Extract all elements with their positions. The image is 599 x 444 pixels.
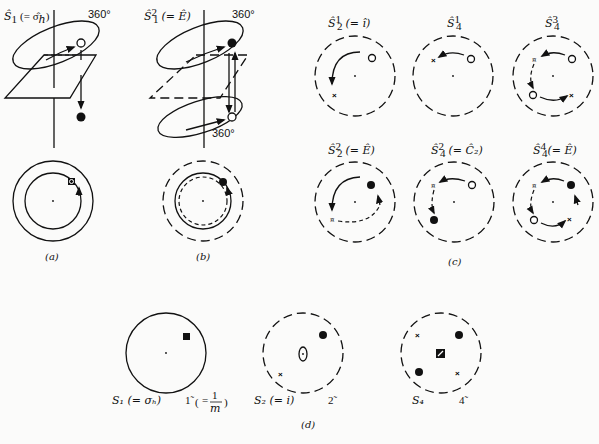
svg-text:1: 1 bbox=[212, 389, 218, 401]
c-title-3: Ŝ34 bbox=[545, 13, 560, 32]
d2-stereogram bbox=[263, 313, 343, 393]
filled-circle-point bbox=[77, 113, 86, 122]
panel-a-title: Ŝ1(= σ̂h) bbox=[4, 9, 50, 26]
c-title-1: Ŝ12(= î) bbox=[328, 13, 370, 32]
d3-schoenflies-label: S₄ bbox=[412, 394, 424, 407]
svg-text:¤: ¤ bbox=[532, 182, 537, 190]
cross-point: × bbox=[332, 91, 337, 100]
svg-text:×: × bbox=[278, 370, 283, 379]
d2-schoenflies-label: S₂ (= i) bbox=[254, 394, 294, 407]
open-circle-point bbox=[77, 39, 85, 47]
panel-c-caption: (c) bbox=[448, 256, 462, 267]
c-title-6: Ŝ44(= Ê) bbox=[533, 140, 577, 159]
c-title-5: Ŝ24(= Ĉ₂) bbox=[431, 140, 483, 159]
panel-c: Ŝ12(= î) Ŝ14 Ŝ34 × × ¤ × Ŝ22(= Ê) Ŝ24(= … bbox=[315, 13, 593, 267]
svg-text:=: = bbox=[202, 394, 208, 406]
panel-d-caption: (d) bbox=[301, 419, 315, 430]
svg-text:×: × bbox=[567, 215, 572, 224]
cross-point: × bbox=[431, 56, 436, 65]
c-title-2: Ŝ14 bbox=[447, 13, 462, 32]
svg-text:×: × bbox=[569, 91, 574, 100]
filled-circle-point bbox=[228, 39, 237, 48]
svg-text:×: × bbox=[455, 369, 460, 378]
d2-hm-label: 2̃ bbox=[328, 394, 338, 406]
svg-text:): ) bbox=[224, 396, 228, 409]
open-circle-point bbox=[468, 56, 475, 63]
d1-hm-label: 1̃ bbox=[185, 394, 195, 406]
svg-text:m: m bbox=[210, 402, 220, 415]
panel-a-caption: (a) bbox=[45, 251, 59, 262]
open-circle-point bbox=[369, 55, 376, 62]
open-circle-point bbox=[228, 113, 236, 121]
svg-text:(: ( bbox=[195, 396, 199, 409]
svg-text:¤: ¤ bbox=[431, 182, 436, 190]
rotation-angle-label: 360° bbox=[88, 8, 111, 20]
mirror-plane-dashed bbox=[150, 55, 248, 98]
symmetry-operations-figure: Ŝ1(= σ̂h) 360° (a) Ŝ21(= Ê) 360° 360° bbox=[0, 0, 599, 444]
coincident-point-marker bbox=[183, 333, 190, 340]
c-title-4: Ŝ22(= Ê) bbox=[328, 140, 375, 159]
filled-circle-point bbox=[219, 178, 227, 186]
svg-text:×: × bbox=[415, 331, 420, 340]
d3-hm-label: 4̃ bbox=[459, 394, 469, 406]
mirror-plane bbox=[5, 55, 96, 98]
svg-text:¤: ¤ bbox=[330, 216, 335, 224]
path-arrow bbox=[332, 52, 360, 84]
rotation-angle-label-top: 360° bbox=[232, 8, 255, 20]
panel-b-caption: (b) bbox=[196, 251, 210, 262]
panel-d: S₁ (= σₕ) 1̃ ( = 1 m ) × S₂ (= i) 2̃ × ×… bbox=[112, 313, 481, 430]
panel-a: Ŝ1(= σ̂h) 360° (a) bbox=[4, 8, 111, 262]
d1-schoenflies-label: S₁ (= σₕ) bbox=[112, 394, 161, 407]
panel-b-title: Ŝ21(= Ê) bbox=[144, 6, 191, 25]
panel-b: Ŝ21(= Ê) 360° 360° (b) bbox=[144, 6, 255, 262]
coincident-cross-point: ¤ bbox=[532, 56, 537, 64]
